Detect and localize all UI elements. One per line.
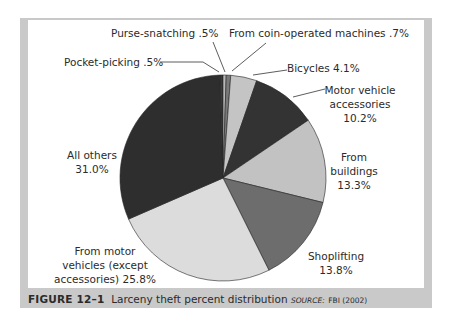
label-motor-2: vehicles (except [62, 259, 148, 271]
leader-pocket [160, 62, 219, 72]
label-pocket: Pocket-picking .5% [64, 56, 163, 68]
label-others-2: 31.0% [75, 163, 108, 175]
label-others-1: All others [67, 149, 117, 161]
pie-chart: Purse-snatching .5% From coin-operated m… [0, 0, 459, 335]
label-mva-2: accessories [330, 98, 391, 110]
leader-purse [213, 42, 225, 72]
figure-caption: FIGURE 12–1 Larceny theft percent distri… [28, 291, 424, 307]
source-value: FBI (2002) [328, 296, 367, 305]
leader-bicycles [253, 70, 287, 75]
leader-coin [232, 43, 266, 71]
label-purse: Purse-snatching .5% [111, 27, 219, 39]
label-buildings-2: buildings [330, 165, 378, 177]
label-buildings-3: 13.3% [337, 179, 370, 191]
label-buildings-1: From [341, 151, 367, 163]
label-shoplifting-1: Shoplifting [308, 250, 364, 262]
pie-slices [120, 75, 326, 281]
figure-title: Larceny theft percent distribution [111, 293, 287, 305]
source-label: SOURCE: [291, 296, 325, 305]
label-coin: From coin-operated machines .7% [229, 27, 409, 39]
label-shoplifting-2: 13.8% [319, 264, 352, 276]
leader-mva [293, 89, 325, 97]
label-bicycles: Bicycles 4.1% [287, 62, 360, 74]
label-mva-1: Motor vehicle [324, 84, 395, 96]
label-mva-3: 10.2% [343, 112, 376, 124]
figure-number: FIGURE 12–1 [28, 293, 105, 305]
label-motor-3: accessories) 25.8% [54, 273, 156, 285]
label-motor-1: From motor [75, 245, 137, 257]
